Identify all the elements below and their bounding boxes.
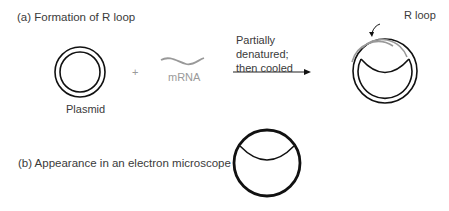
plasmid-icon	[55, 47, 105, 97]
plus-sign: +	[132, 66, 138, 78]
mrna-label: mRNA	[168, 71, 200, 83]
mrna-icon	[161, 58, 204, 64]
arrow-label: Partially denatured; then cooled	[236, 33, 293, 75]
r-loop-structure-icon	[352, 24, 417, 103]
plasmid-label: Plasmid	[66, 103, 105, 115]
panel-a-title: (a) Formation of R loop	[17, 11, 135, 23]
panel-b-title: (b) Appearance in an electron microscope	[18, 157, 231, 169]
r-loop-label: R loop	[404, 9, 436, 21]
em-view-icon	[234, 130, 300, 196]
